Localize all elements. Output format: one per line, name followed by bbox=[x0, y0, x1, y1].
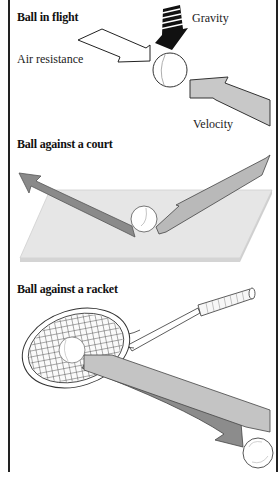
title-ball-in-flight: Ball in flight bbox=[17, 10, 78, 25]
diagram-canvas bbox=[0, 0, 279, 480]
court-ball bbox=[131, 206, 157, 232]
air-resistance-arrow bbox=[78, 29, 150, 62]
panel-ball-against-racket bbox=[10, 288, 273, 468]
label-air-resistance: Air resistance bbox=[17, 52, 83, 67]
title-ball-against-racket: Ball against a racket bbox=[17, 282, 118, 297]
gravity-arrow bbox=[155, 5, 188, 50]
panel-ball-in-flight bbox=[78, 5, 270, 126]
racket-direction-band bbox=[84, 355, 270, 432]
racket-ball bbox=[59, 337, 85, 363]
title-ball-against-court: Ball against a court bbox=[17, 137, 113, 152]
label-velocity: Velocity bbox=[193, 117, 233, 132]
label-gravity: Gravity bbox=[192, 11, 229, 26]
outgoing-ball bbox=[243, 438, 273, 468]
tennis-ball bbox=[153, 53, 187, 87]
panel-ball-against-court bbox=[19, 155, 272, 262]
